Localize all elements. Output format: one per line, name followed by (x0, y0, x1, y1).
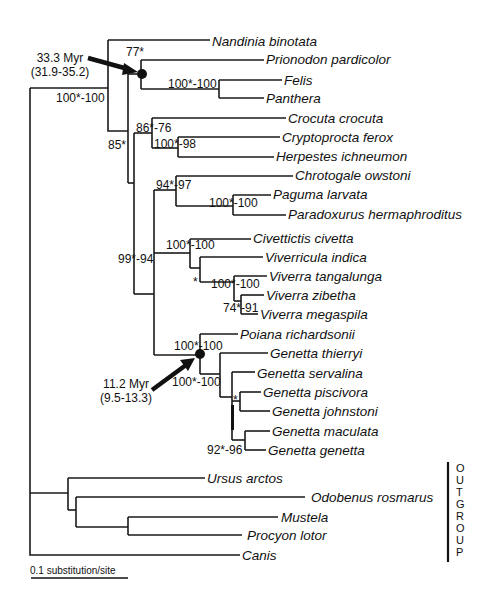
taxon-label: Procyon lotor (247, 528, 327, 543)
taxon-label: Prionodon pardicolor (266, 52, 391, 67)
outgroup-letter: U (456, 534, 464, 546)
phylogenetic-tree: Nandinia binotata Prionodon pardicolor F… (0, 0, 496, 593)
support-value: 77* (126, 45, 144, 59)
support-value: 100*-100 (168, 77, 217, 91)
taxon-label: Viverra tangalunga (269, 269, 383, 284)
taxon-label: Viverra zibetha (266, 288, 356, 303)
support-value: * (233, 393, 238, 407)
taxon-label: Mustela (281, 510, 329, 525)
taxon-labels: Nandinia binotata Prionodon pardicolor F… (207, 34, 462, 563)
scale-bar-label: 0.1 substitution/site (30, 565, 116, 576)
taxon-label: Civettictis civetta (253, 231, 354, 246)
taxon-label: Genetta servalina (257, 366, 363, 381)
outgroup-letter: U (456, 474, 464, 486)
support-value: 85* (108, 138, 126, 152)
calibration-node-1 (137, 69, 147, 79)
outgroup-letter: O (456, 522, 465, 534)
outgroup-letter: P (456, 546, 463, 558)
outgroup-letter: O (456, 462, 465, 474)
taxon-label: Poiana richardsonii (240, 327, 356, 342)
node-age-annotation-2: 11.2 Myr (9.5-13.3) (100, 377, 152, 405)
outgroup-letter: T (456, 486, 463, 498)
node-age-annotation-1: 33.3 Myr (31.9-35.2) (31, 51, 90, 79)
taxon-label: Genetta thierryi (270, 346, 363, 361)
support-values: 77* 100*-100 100*-100 86*-76 100*-98 85*… (56, 45, 260, 457)
support-value: 100*-98 (154, 137, 196, 151)
node-age: 33.3 Myr (37, 51, 84, 65)
support-value: 94*-97 (156, 178, 192, 192)
support-value: 74*-91 (223, 301, 259, 315)
taxon-label: Genetta maculata (272, 424, 379, 439)
outgroup-letter: R (456, 510, 464, 522)
support-value: * (193, 275, 198, 289)
taxon-label: Felis (284, 73, 313, 88)
taxon-label: Nandinia binotata (212, 34, 318, 49)
support-value: 100*-100 (211, 277, 260, 291)
taxon-label: Crocuta crocuta (288, 111, 384, 126)
taxon-label: Ursus arctos (207, 471, 283, 486)
taxon-label: Paguma larvata (273, 187, 368, 202)
scale-bar: 0.1 substitution/site (30, 565, 128, 578)
support-value: 92*-96 (207, 443, 243, 457)
taxon-label: Genetta piscivora (263, 385, 369, 400)
node-age-interval: (31.9-35.2) (31, 65, 90, 79)
taxon-label: Herpestes ichneumon (276, 149, 407, 164)
taxon-label: Genetta johnstoni (272, 404, 379, 419)
taxon-label: Odobenus rosmarus (311, 490, 434, 505)
support-value: 100*-100 (172, 375, 221, 389)
taxon-label: Paradoxurus hermaphroditus (288, 207, 462, 222)
taxon-label: Canis (242, 548, 277, 563)
support-value: 86*-76 (136, 121, 172, 135)
taxon-label: Panthera (266, 91, 321, 106)
support-value: 99*-94 (118, 252, 154, 266)
thick-branch-marker (231, 405, 234, 430)
taxon-label: Genetta genetta (268, 443, 365, 458)
support-value: 100*-100 (174, 339, 223, 353)
outgroup-letter: G (456, 498, 465, 510)
taxon-label: Chrotogale owstoni (295, 168, 412, 183)
node-age: 11.2 Myr (103, 377, 149, 391)
taxon-label: Viverra megaspila (260, 307, 368, 322)
support-value: 100*-100 (166, 238, 215, 252)
node-age-interval: (9.5-13.3) (100, 391, 152, 405)
support-value: 100*-100 (56, 91, 105, 105)
support-value: 100*-100 (209, 196, 258, 210)
outgroup-label: O U T G R O U P (456, 462, 465, 558)
arrow-icon-1 (88, 58, 138, 75)
taxon-label: Viverricula indica (265, 250, 367, 265)
taxon-label: Cryptoprocta ferox (282, 130, 394, 145)
